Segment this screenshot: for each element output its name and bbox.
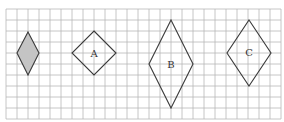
label-b: B [167,59,174,70]
grid-lines [6,9,281,119]
diagram-svg: A B C [0,0,284,122]
shaded-rhombus [17,32,39,75]
rhombus-grid-diagram: A B C [0,0,284,122]
label-c: C [245,47,253,58]
label-a: A [89,48,98,59]
